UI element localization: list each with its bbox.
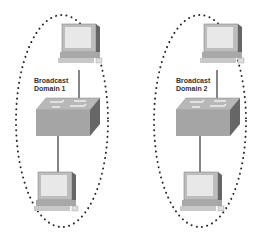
network-diagram <box>0 0 276 240</box>
switch-icon <box>36 98 100 136</box>
broadcast-domain-1 <box>16 15 108 227</box>
switch-icon <box>176 98 240 136</box>
domain-label-line1: Broadcast <box>176 77 210 85</box>
broadcast-domain-2 <box>154 15 246 227</box>
pc-icon <box>34 172 78 211</box>
pc-icon <box>200 24 244 63</box>
pc-icon <box>58 24 102 63</box>
domain-label-line2: Domain 2 <box>176 85 210 93</box>
pc-icon <box>180 172 224 211</box>
domain-label-line2: Domain 1 <box>34 85 68 93</box>
domain-1-label: Broadcast Domain 1 <box>34 77 68 93</box>
domain-2-label: Broadcast Domain 2 <box>176 77 210 93</box>
domain-label-line1: Broadcast <box>34 77 68 85</box>
